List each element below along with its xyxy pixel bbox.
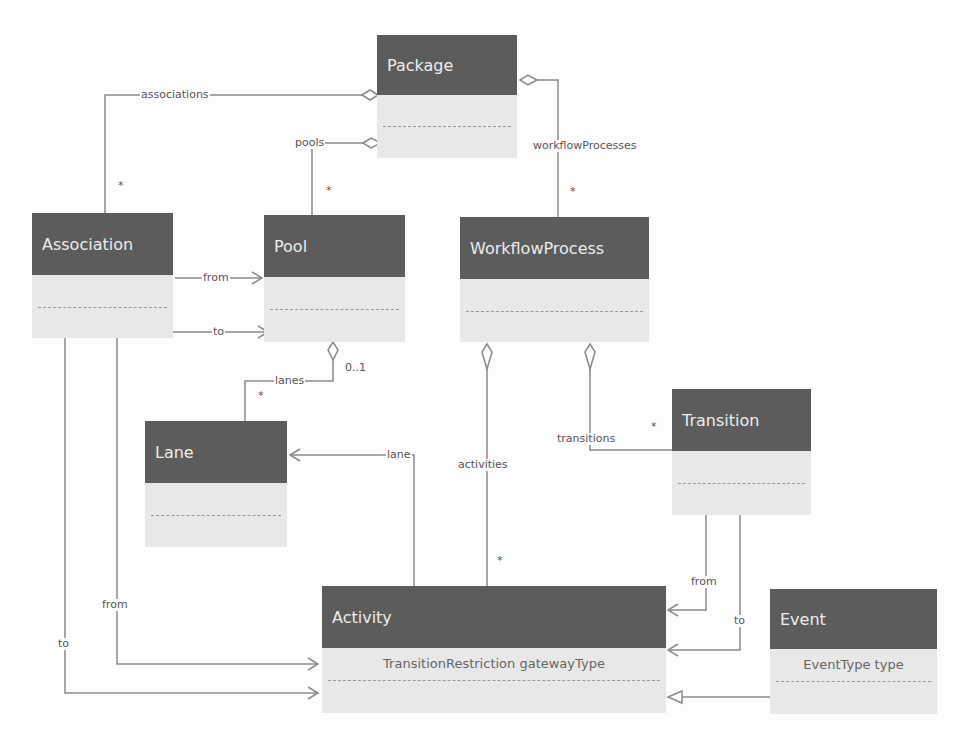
class-transition-body — [672, 451, 811, 515]
class-lane[interactable]: Lane — [145, 421, 287, 547]
class-pool[interactable]: Pool — [264, 215, 405, 342]
compartment-divider — [383, 126, 511, 127]
class-activity-body: TransitionRestriction gatewayType — [322, 648, 666, 713]
class-association-body — [32, 275, 173, 338]
class-package[interactable]: Package — [377, 35, 517, 158]
class-workflow-process[interactable]: WorkflowProcess — [460, 217, 649, 342]
multiplicity-activities: * — [497, 555, 503, 567]
compartment-divider — [678, 483, 805, 484]
class-event-header: Event — [770, 589, 937, 649]
class-lane-body — [145, 483, 287, 547]
multiplicity-lanes-owner: 0..1 — [345, 362, 366, 374]
compartment-divider — [151, 515, 281, 516]
label-association-to-activity: to — [57, 638, 70, 650]
class-package-header: Package — [377, 35, 517, 95]
label-activities: activities — [457, 459, 509, 471]
class-transition[interactable]: Transition — [672, 389, 811, 515]
class-event-body: EventType type — [770, 649, 937, 714]
class-workflow-process-body — [460, 279, 649, 342]
class-association[interactable]: Association — [32, 213, 173, 338]
label-workflow-processes: workflowProcesses — [532, 140, 638, 152]
compartment-divider — [270, 309, 399, 310]
label-associations: associations — [140, 89, 210, 101]
compartment-divider — [328, 680, 660, 681]
class-lane-header: Lane — [145, 421, 287, 483]
label-transitions: transitions — [556, 433, 616, 445]
multiplicity-associations: * — [118, 180, 124, 192]
multiplicity-pools: * — [326, 185, 332, 197]
compartment-divider — [776, 681, 931, 682]
label-transition-to: to — [733, 615, 746, 627]
label-pools: pools — [294, 137, 325, 149]
label-lanes: lanes — [274, 375, 305, 387]
label-association-from-pool: from — [202, 272, 230, 284]
compartment-divider — [466, 311, 643, 312]
class-package-body — [377, 95, 517, 158]
multiplicity-workflow-processes: * — [570, 186, 576, 198]
class-activity-header: Activity — [322, 586, 666, 648]
label-transition-from: from — [690, 576, 718, 588]
class-activity[interactable]: Activity TransitionRestriction gatewayTy… — [322, 586, 666, 713]
attribute-event-type: EventType type — [770, 657, 937, 672]
class-pool-header: Pool — [264, 215, 405, 277]
class-association-header: Association — [32, 213, 173, 275]
multiplicity-lanes: * — [258, 390, 264, 402]
label-association-from-activity: from — [101, 599, 129, 611]
class-workflow-process-header: WorkflowProcess — [460, 217, 649, 279]
attribute-gateway-type: TransitionRestriction gatewayType — [322, 656, 666, 671]
class-transition-header: Transition — [672, 389, 811, 451]
compartment-divider — [38, 307, 167, 308]
label-activity-lane: lane — [386, 449, 412, 461]
class-event[interactable]: Event EventType type — [770, 589, 937, 714]
multiplicity-transitions: * — [651, 421, 657, 433]
class-pool-body — [264, 277, 405, 342]
label-association-to-pool: to — [212, 326, 225, 338]
